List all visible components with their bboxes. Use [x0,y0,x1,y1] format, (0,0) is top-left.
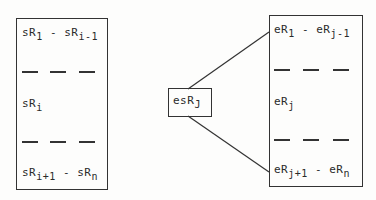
center-node-label: esRJ [173,94,201,107]
label: eR [274,23,288,36]
label: sR [64,26,78,39]
subscript: i+1 [36,171,56,182]
left-row-middle: sRi [22,97,43,110]
label: eR [316,23,330,36]
right-row-middle: eRj [274,95,295,108]
right-row-last: eRj+1 - eRn [274,163,350,176]
separator: - [308,163,329,176]
label: eR [274,95,288,108]
label: eR [274,163,288,176]
ellipsis-dash [79,71,95,73]
label: esR [173,94,194,107]
separator: - [43,26,64,39]
subscript: J [194,99,201,110]
label: sR [22,26,36,39]
ellipsis-dash [274,69,290,71]
ellipsis-dash [79,141,95,143]
ellipsis-dash [22,71,38,73]
subscript: j-1 [330,28,350,39]
separator: - [56,166,77,179]
ellipsis-dash [50,71,66,73]
ellipsis-dash [22,141,38,143]
subscript: i-1 [78,31,98,42]
ellipsis-dash [333,69,349,71]
ellipsis-dash [50,141,66,143]
ellipsis-dash [333,139,349,141]
subscript: i [36,102,43,113]
label: sR [77,166,91,179]
right-row-first: eR1 - eRj-1 [274,23,350,36]
label: sR [22,166,36,179]
ellipsis-dash [303,69,319,71]
ellipsis-dash [303,139,319,141]
subscript: n [91,171,98,182]
label: sR [22,97,36,110]
ellipsis-dash [274,139,290,141]
label: eR [329,163,343,176]
subscript: 1 [288,28,295,39]
left-row-last: sRi+1 - sRn [22,166,98,179]
left-row-first: sR1 - sRi-1 [22,26,98,39]
subscript: 1 [36,31,43,42]
subscript: j [288,100,295,111]
separator: - [295,23,316,36]
subscript: j+1 [288,168,308,179]
subscript: n [343,168,350,179]
